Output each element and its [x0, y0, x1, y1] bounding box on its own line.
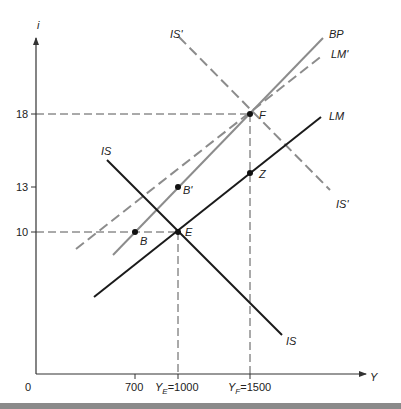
y-tick-10: 10: [16, 226, 28, 238]
point-e: [175, 229, 181, 235]
is-prime-curve: [179, 37, 330, 190]
y-tick-18: 18: [16, 108, 28, 120]
lm-label: LM: [329, 110, 345, 122]
lm-prime-curve: [76, 55, 323, 249]
x-tick-ye: YE=1000: [155, 381, 199, 396]
is-label-top: IS: [101, 145, 112, 157]
x-axis-label: Y: [370, 371, 378, 383]
y-axis-label: i: [37, 19, 40, 31]
point-b-prime-label: B': [183, 184, 193, 196]
point-b: [132, 229, 138, 235]
point-f: [247, 111, 253, 117]
point-b-label: B: [140, 235, 147, 247]
point-e-label: E: [185, 226, 193, 238]
bp-label: BP: [329, 28, 344, 40]
x-tick-700: 700: [125, 381, 143, 393]
bottom-divider-bar: [0, 403, 401, 409]
x-tick-yf: YF=1500: [228, 381, 271, 396]
origin-label: 0: [25, 381, 31, 393]
y-tick-13: 13: [16, 181, 28, 193]
is-curve: [107, 160, 282, 335]
point-z: [247, 170, 253, 176]
point-z-label: Z: [258, 168, 267, 180]
bp-curve: [113, 38, 323, 255]
point-b-prime: [175, 184, 181, 190]
point-f-label: F: [259, 109, 267, 121]
is-prime-label-top: IS': [170, 28, 183, 40]
is-prime-label-bottom: IS': [336, 198, 349, 210]
is-lm-bp-diagram: i Y 0 18 13 10 700 YE=1000 YF=1500 IS IS…: [0, 0, 401, 409]
is-label-bottom: IS: [286, 335, 297, 347]
lm-prime-label: LM': [331, 48, 349, 60]
